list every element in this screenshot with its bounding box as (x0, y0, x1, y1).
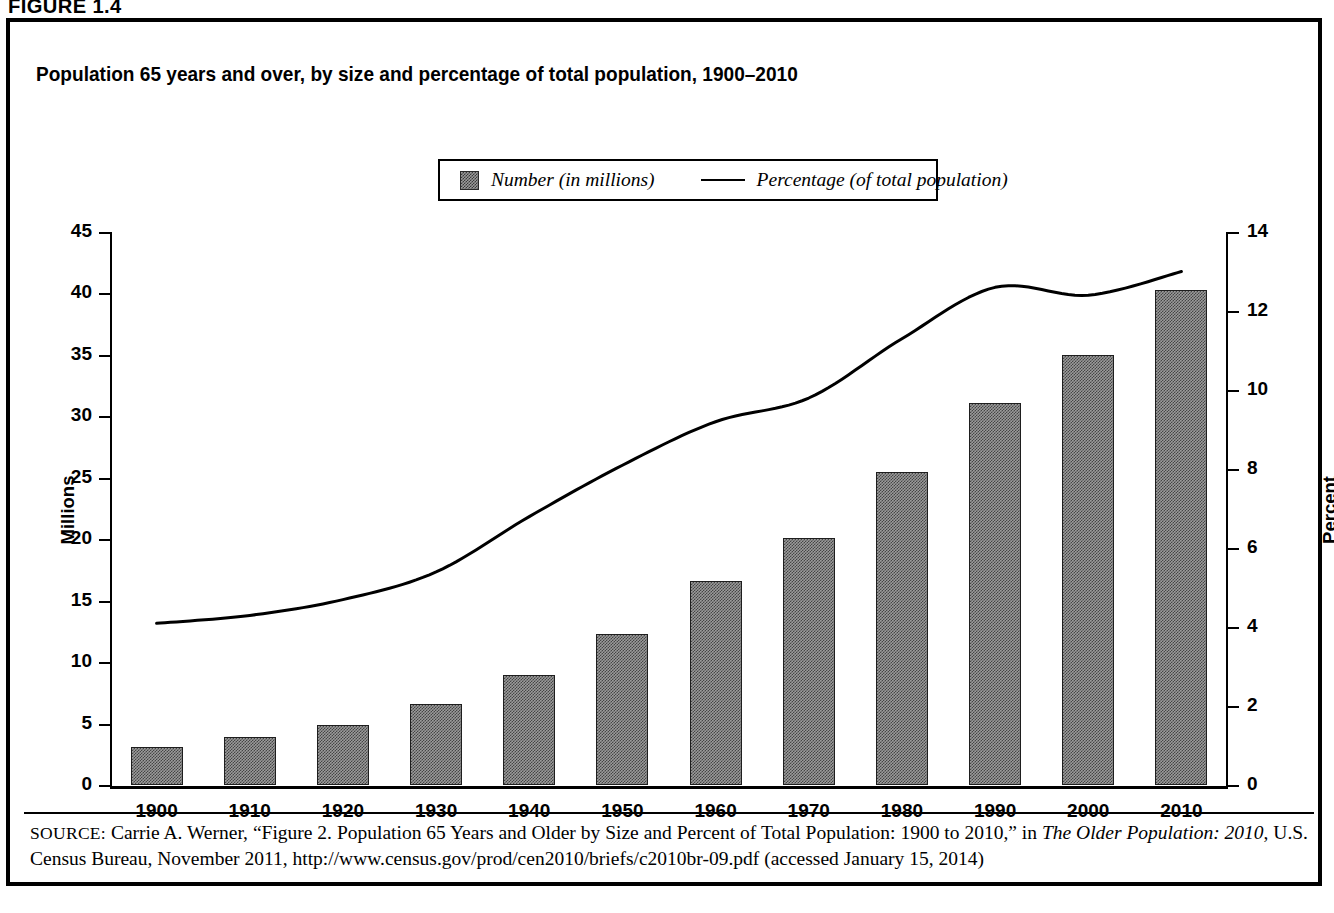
x-tick-label-1980: 1980 (881, 800, 923, 822)
y-tick-left (99, 662, 110, 664)
x-tick-label-1960: 1960 (694, 800, 736, 822)
bar-1940 (503, 675, 555, 786)
bar-1900 (131, 747, 183, 785)
y-axis-right-title: Percent (1319, 476, 1334, 544)
y-tick-right (1228, 548, 1239, 550)
y-tick-label-right: 6 (1247, 536, 1258, 558)
bar-1990 (969, 403, 1021, 785)
bar-1920 (317, 725, 369, 785)
y-tick-label-left: 5 (81, 712, 92, 734)
y-tick-label-left: 35 (71, 343, 92, 365)
y-tick-label-right: 14 (1247, 220, 1268, 242)
y-tick-label-left: 15 (71, 589, 92, 611)
x-tick-label-2010: 2010 (1160, 800, 1202, 822)
bar-1980 (876, 472, 928, 786)
y-tick-left (99, 724, 110, 726)
source-italic-title: The Older Population: 2010 (1042, 822, 1264, 843)
y-tick-right (1228, 627, 1239, 629)
y-tick-right (1228, 232, 1239, 234)
x-tick-label-1990: 1990 (974, 800, 1016, 822)
legend-item-percentage: Percentage (of total population) (701, 169, 1008, 191)
source-note: SOURCE: Carrie A. Werner, “Figure 2. Pop… (30, 820, 1308, 871)
y-tick-label-right: 2 (1247, 694, 1258, 716)
x-tick-label-2000: 2000 (1067, 800, 1109, 822)
source-prefix: SOURCE: (30, 823, 106, 843)
bar-1930 (410, 704, 462, 785)
y-tick-label-right: 10 (1247, 378, 1268, 400)
y-tick-label-left: 0 (81, 773, 92, 795)
y-tick-left (99, 416, 110, 418)
figure-label: FIGURE 1.4 (8, 0, 122, 18)
legend-item-number: Number (in millions) (460, 169, 655, 191)
y-tick-label-left: 25 (71, 466, 92, 488)
line-marker-icon (701, 179, 745, 181)
x-tick-label-1950: 1950 (601, 800, 643, 822)
plot-area: Millions Percent 05101520253035404502468… (110, 232, 1228, 788)
source-text-1: Carrie A. Werner, “Figure 2. Population … (106, 822, 1042, 843)
bar-1970 (783, 538, 835, 785)
y-tick-label-left: 10 (71, 650, 92, 672)
y-tick-label-left: 20 (71, 527, 92, 549)
bar-1960 (690, 581, 742, 785)
y-tick-left (99, 355, 110, 357)
y-tick-label-left: 40 (71, 281, 92, 303)
bar-1910 (224, 737, 276, 785)
bar-1950 (596, 634, 648, 785)
percentage-line-series (110, 232, 1228, 788)
y-tick-label-right: 8 (1247, 457, 1258, 479)
x-tick-label-1900: 1900 (135, 800, 177, 822)
y-tick-label-right: 12 (1247, 299, 1268, 321)
y-tick-right (1228, 390, 1239, 392)
figure-page: FIGURE 1.4 Population 65 years and over,… (0, 0, 1334, 913)
y-tick-left (99, 785, 110, 787)
bar-2000 (1062, 355, 1114, 785)
figure-frame: Population 65 years and over, by size an… (6, 18, 1322, 886)
chart-title: Population 65 years and over, by size an… (36, 62, 798, 86)
x-tick-label-1930: 1930 (415, 800, 457, 822)
y-tick-left (99, 478, 110, 480)
y-tick-left (99, 539, 110, 541)
y-tick-label-left: 30 (71, 404, 92, 426)
y-tick-right (1228, 311, 1239, 313)
x-tick-label-1920: 1920 (322, 800, 364, 822)
y-tick-label-left: 45 (71, 220, 92, 242)
chart-legend: Number (in millions) Percentage (of tota… (438, 159, 938, 201)
y-tick-label-right: 0 (1247, 773, 1258, 795)
y-tick-label-right: 4 (1247, 615, 1258, 637)
legend-label-number: Number (in millions) (491, 169, 655, 191)
x-tick-label-1970: 1970 (788, 800, 830, 822)
x-tick-label-1940: 1940 (508, 800, 550, 822)
x-tick-label-1910: 1910 (229, 800, 271, 822)
hatched-square-icon (460, 171, 479, 190)
y-tick-left (99, 232, 110, 234)
y-tick-right (1228, 469, 1239, 471)
y-tick-left (99, 601, 110, 603)
y-tick-right (1228, 706, 1239, 708)
legend-label-percentage: Percentage (of total population) (757, 169, 1008, 191)
y-tick-right (1228, 785, 1239, 787)
bar-2010 (1155, 290, 1207, 786)
y-tick-left (99, 293, 110, 295)
source-divider (24, 812, 1314, 814)
